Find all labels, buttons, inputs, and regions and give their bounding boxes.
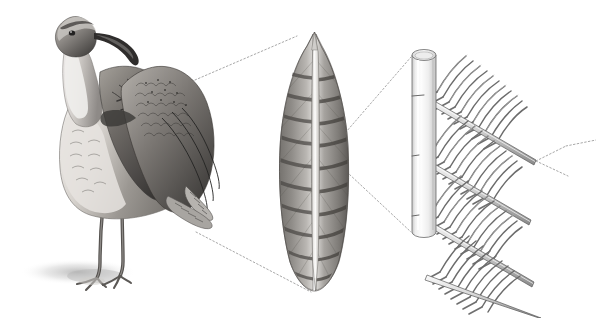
bird-eye xyxy=(69,30,75,35)
rachis-cylinder-top-inner xyxy=(415,52,433,59)
illustration-canvas xyxy=(0,0,596,318)
rachis-cylinder xyxy=(412,50,436,238)
feather-structure-figure: Feather structure magnification series xyxy=(0,0,596,318)
bird-foot-highlight xyxy=(79,277,105,285)
bird-eye-highlight xyxy=(70,31,72,33)
